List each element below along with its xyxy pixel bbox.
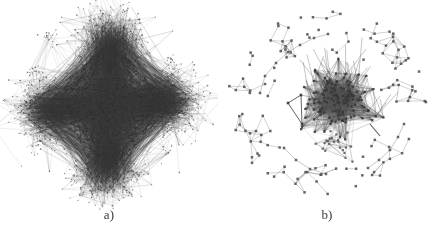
panel-a-label: a) <box>0 206 218 224</box>
panel-b: b) <box>218 0 436 248</box>
dense-hairball-network-graph <box>0 0 218 210</box>
figure-container: a) b) <box>0 0 436 248</box>
panel-a: a) <box>0 0 218 248</box>
sparse-core-periphery-network-graph <box>218 0 436 210</box>
panel-b-label: b) <box>218 206 436 224</box>
